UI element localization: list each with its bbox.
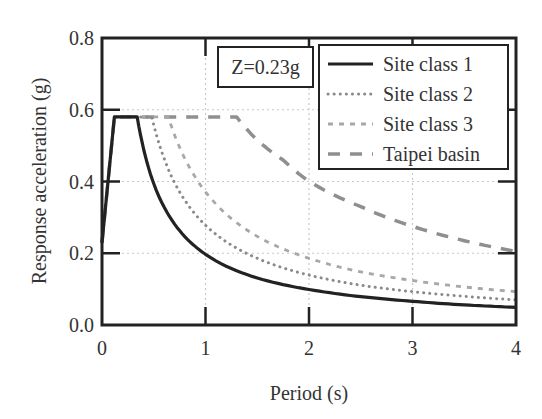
y-axis-title: Response acceleration (g)	[28, 78, 51, 285]
y-tick-labels: 0.00.20.40.60.8	[69, 27, 94, 336]
legend-label: Site class 3	[383, 113, 473, 135]
legend-label: Taipei basin	[383, 143, 480, 166]
x-tick-label: 1	[201, 337, 211, 359]
legend-label: Site class 2	[383, 83, 473, 105]
y-tick-label: 0.8	[69, 27, 94, 49]
annotation-text: Z=0.23g	[231, 56, 300, 79]
annotation-box: Z=0.23g	[218, 47, 313, 87]
y-tick-label: 0.2	[69, 242, 94, 264]
x-axis-title: Period (s)	[270, 382, 348, 405]
legend-label: Site class 1	[383, 53, 473, 75]
x-tick-label: 4	[511, 337, 521, 359]
y-tick-label: 0.6	[69, 99, 94, 121]
x-tick-label: 2	[304, 337, 314, 359]
x-tick-labels: 01234	[97, 337, 521, 359]
legend: Site class 1Site class 2Site class 3Taip…	[319, 45, 508, 169]
x-tick-label: 3	[408, 337, 418, 359]
y-tick-label: 0.4	[69, 171, 94, 193]
response-spectrum-chart: 01234 0.00.20.40.60.8 Period (s) Respons…	[0, 0, 542, 419]
x-tick-label: 0	[97, 337, 107, 359]
y-tick-label: 0.0	[69, 314, 94, 336]
